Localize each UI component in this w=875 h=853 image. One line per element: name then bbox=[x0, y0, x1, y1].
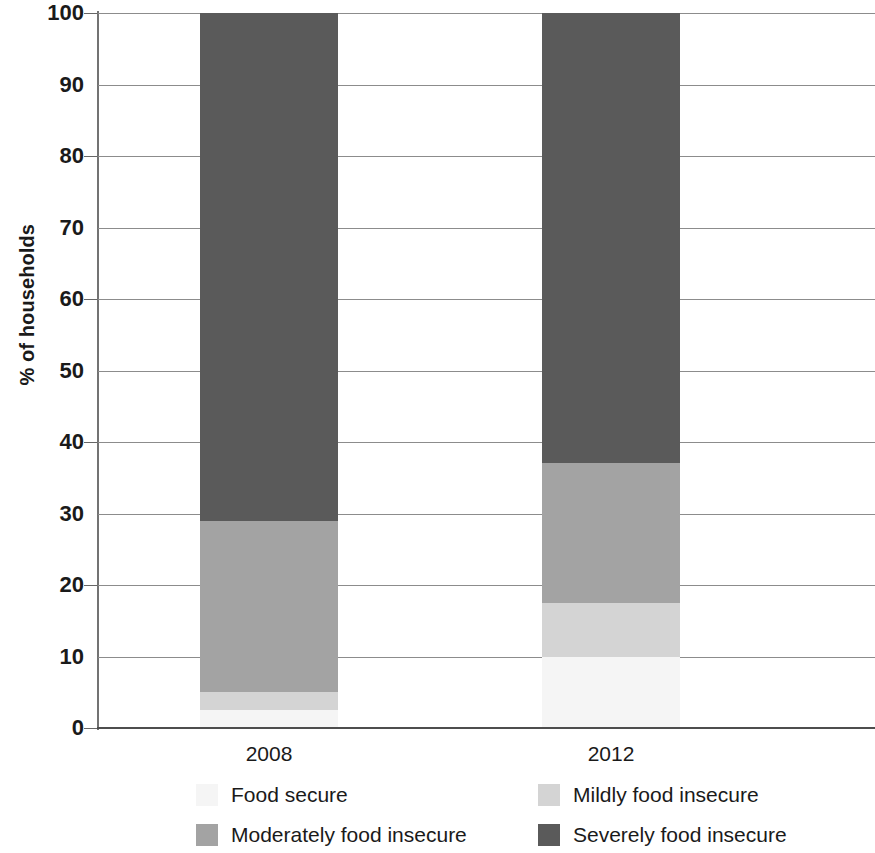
plot-area bbox=[98, 13, 875, 728]
y-tick-label-20: 20 bbox=[14, 574, 84, 596]
y-tick-50 bbox=[84, 728, 97, 729]
y-tick-90 bbox=[84, 156, 97, 157]
legend-label: Moderately food insecure bbox=[231, 823, 467, 847]
x-tick-label-2012: 2012 bbox=[511, 742, 711, 766]
legend-entry[interactable]: Severely food insecure bbox=[538, 820, 787, 850]
bar-segment[interactable] bbox=[200, 521, 338, 693]
bar-group-2012[interactable] bbox=[542, 13, 680, 728]
legend-entry[interactable]: Moderately food insecure bbox=[196, 820, 467, 850]
y-tick-label-100: 100 bbox=[14, 2, 84, 24]
legend-swatch-icon bbox=[196, 824, 218, 846]
legend-swatch-icon bbox=[538, 784, 560, 806]
y-tick-label-10: 10 bbox=[14, 646, 84, 668]
bar-segment[interactable] bbox=[200, 13, 338, 521]
bar-segment[interactable] bbox=[542, 603, 680, 657]
legend-label: Food secure bbox=[231, 783, 348, 807]
y-tick-70 bbox=[84, 442, 97, 443]
legend-label: Severely food insecure bbox=[573, 823, 787, 847]
legend-label: Mildly food insecure bbox=[573, 783, 759, 807]
bar-segment[interactable] bbox=[542, 657, 680, 729]
bar-segment[interactable] bbox=[200, 692, 338, 710]
y-tick-label-60: 60 bbox=[14, 288, 84, 310]
bar-segment[interactable] bbox=[542, 13, 680, 463]
y-axis-tick-labels: 0102030405060708090100 bbox=[0, 0, 84, 853]
y-tick-label-70: 70 bbox=[14, 217, 84, 239]
legend-swatch-icon bbox=[538, 824, 560, 846]
y-tick-label-50: 50 bbox=[14, 360, 84, 382]
x-tick-label-2008: 2008 bbox=[169, 742, 369, 766]
legend-swatch-icon bbox=[196, 784, 218, 806]
legend-entry[interactable]: Mildly food insecure bbox=[538, 780, 759, 810]
y-tick-label-0: 0 bbox=[14, 717, 84, 739]
y-tick-60 bbox=[84, 585, 97, 586]
bar-segment[interactable] bbox=[542, 463, 680, 602]
y-tick-label-90: 90 bbox=[14, 74, 84, 96]
x-axis-line bbox=[97, 727, 875, 729]
y-tick-label-40: 40 bbox=[14, 431, 84, 453]
bar-segment[interactable] bbox=[200, 710, 338, 728]
chart-container: % of households 0102030405060708090100 2… bbox=[0, 0, 875, 853]
chart-legend: Food secureMildly food insecureModeratel… bbox=[0, 778, 875, 853]
bar-group-2008[interactable] bbox=[200, 13, 338, 728]
y-tick-80 bbox=[84, 299, 97, 300]
y-tick-100 bbox=[84, 13, 97, 14]
legend-entry[interactable]: Food secure bbox=[196, 780, 348, 810]
y-tick-label-80: 80 bbox=[14, 145, 84, 167]
y-tick-label-30: 30 bbox=[14, 503, 84, 525]
